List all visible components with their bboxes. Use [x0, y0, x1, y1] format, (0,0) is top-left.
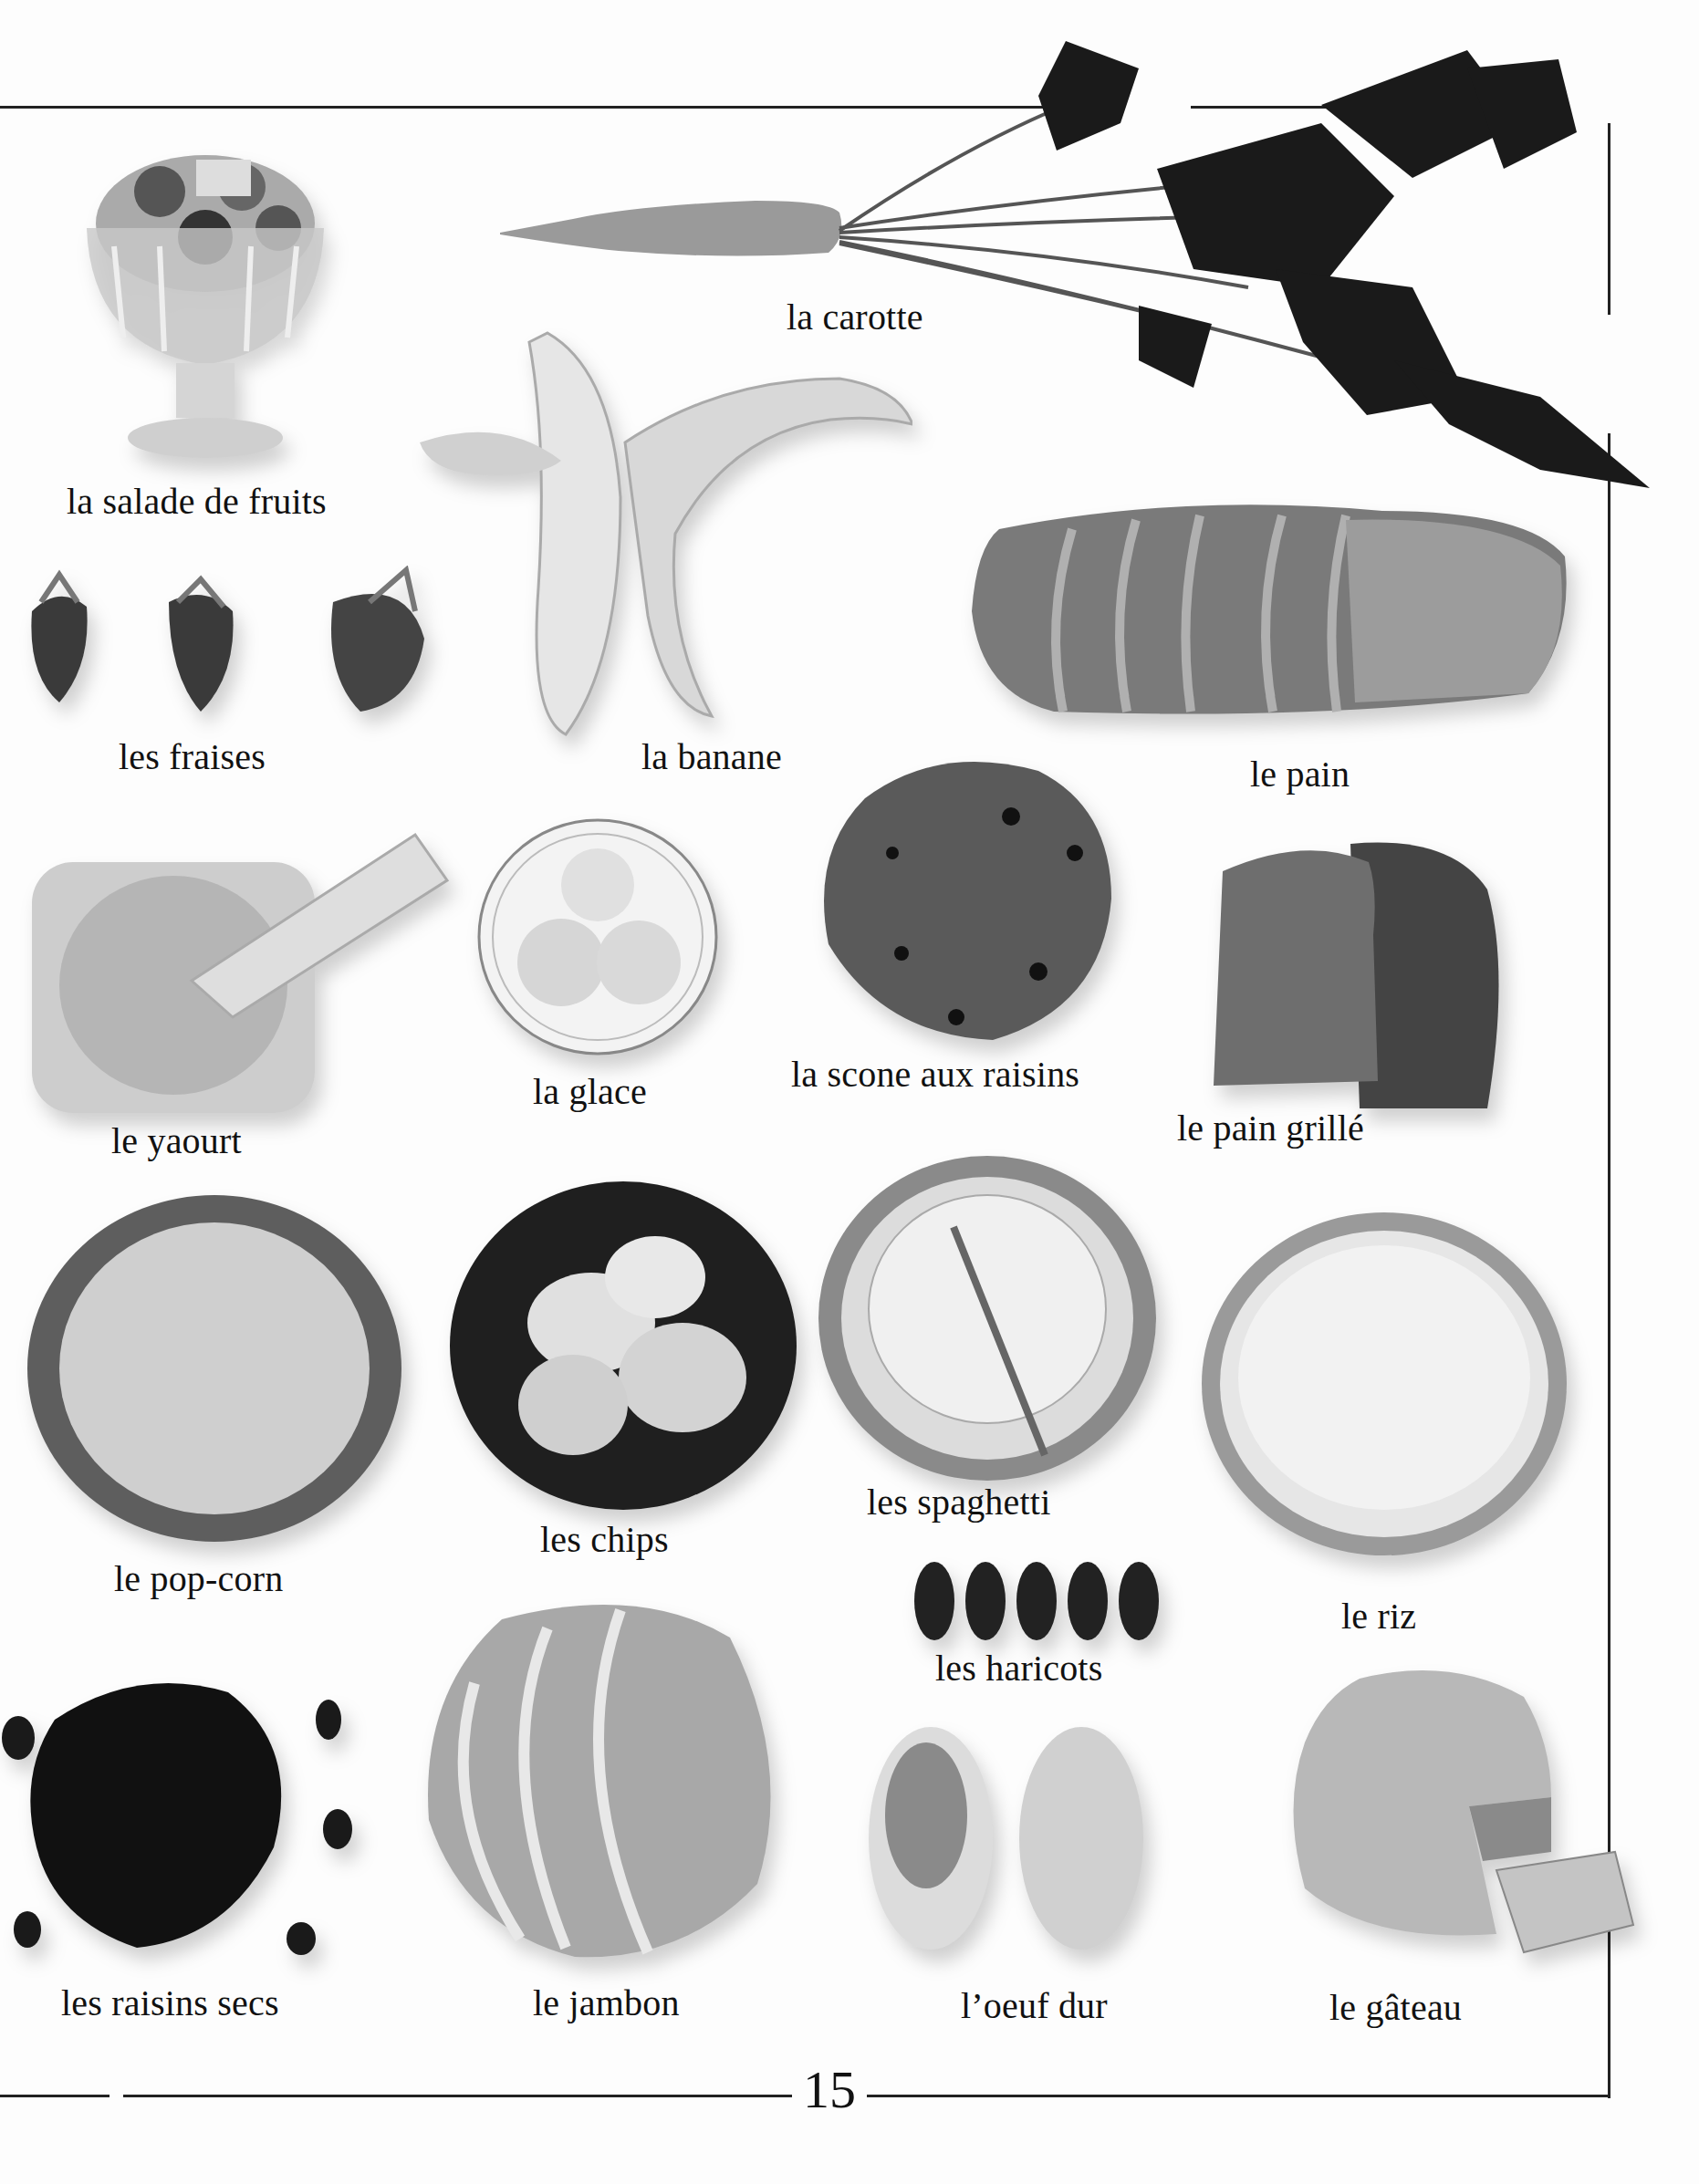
ham-slices-icon — [411, 1583, 803, 1966]
cake-slice-icon — [1287, 1660, 1652, 1961]
label-glace: la glace — [533, 1074, 647, 1110]
crisps-bowl-icon — [445, 1177, 801, 1514]
spaghetti-plate-icon — [817, 1154, 1159, 1482]
raisin-scone-icon — [810, 744, 1121, 1045]
vocabulary-page: 15 la salade de fruits la carotte — [0, 0, 1699, 2184]
label-pain-grille: le pain grillé — [1177, 1110, 1364, 1147]
label-gateau: le gâteau — [1329, 1990, 1462, 2026]
label-scone: la scone aux raisins — [791, 1056, 1079, 1093]
label-jambon: le jambon — [533, 1985, 680, 2022]
label-spaghetti: les spaghetti — [867, 1484, 1050, 1521]
label-fraises: les fraises — [119, 739, 266, 775]
raisins-pile-icon — [0, 1665, 365, 1966]
ice-cream-plate-icon — [474, 816, 721, 1058]
yogurt-cup-icon — [32, 826, 452, 1118]
label-banane: la banane — [641, 739, 782, 775]
page-number: 15 — [792, 2064, 867, 2116]
label-oeuf-dur: l’oeuf dur — [961, 1988, 1108, 2024]
rice-plate-icon — [1197, 1209, 1571, 1560]
label-riz: le riz — [1341, 1598, 1416, 1635]
bottom-rule-left — [0, 2095, 109, 2097]
fruit-salad-bowl-icon — [68, 137, 342, 474]
kidney-beans-icon — [912, 1560, 1168, 1642]
label-haricots: les haricots — [935, 1650, 1102, 1687]
peeled-banana-icon — [401, 315, 912, 744]
bread-loaf-icon — [963, 493, 1574, 730]
toast-slices-icon — [1195, 835, 1560, 1118]
label-pop-corn: le pop-corn — [114, 1561, 283, 1597]
label-raisins-secs: les raisins secs — [61, 1985, 279, 2022]
popcorn-plate-icon — [23, 1191, 406, 1546]
label-yaourt: le yaourt — [111, 1123, 242, 1160]
label-pain: le pain — [1250, 756, 1350, 793]
bottom-rule — [123, 2095, 1610, 2097]
label-chips: les chips — [540, 1522, 669, 1558]
boiled-egg-icon — [867, 1724, 1232, 1952]
label-salade-de-fruits: la salade de fruits — [67, 484, 327, 520]
